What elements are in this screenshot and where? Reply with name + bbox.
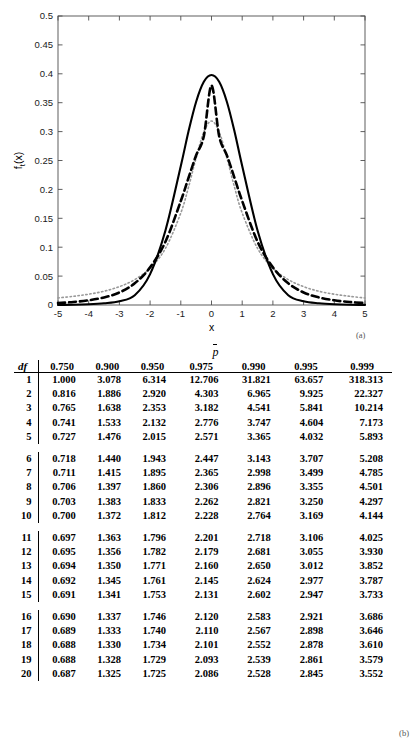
- column-header-0975: 0.975: [175, 360, 227, 372]
- x-tick-label: -3: [115, 308, 123, 319]
- table-cell-df: 1: [14, 373, 39, 388]
- table-cell-value: 1.833: [130, 495, 175, 509]
- table-cell-value: 2.821: [227, 495, 279, 509]
- table-row: 100.7001.3721.8122.2282.7643.1694.144: [14, 509, 392, 523]
- table-cell-value: 2.681: [227, 545, 279, 559]
- table-cell-value: 1.415: [85, 466, 130, 480]
- table-cell-value: 3.686: [332, 610, 392, 624]
- table-cell-value: 2.998: [227, 466, 279, 480]
- table-cell-value: 4.303: [175, 387, 227, 401]
- table-cell-df: 7: [14, 466, 39, 480]
- table-cell-value: 1.860: [130, 480, 175, 494]
- table-cell-df: 12: [14, 545, 39, 559]
- supertitle-spacer: [14, 345, 39, 360]
- table-cell-value: 1.328: [85, 653, 130, 667]
- table-cell-value: 2.571: [175, 430, 227, 444]
- table-cell-value: 2.160: [175, 559, 227, 573]
- table-cell-value: 318.313: [332, 373, 392, 388]
- table-cell-df: 18: [14, 638, 39, 652]
- table-cell-value: 3.747: [227, 416, 279, 430]
- x-tick-label: 3: [301, 308, 306, 319]
- table-cell-value: 2.015: [130, 430, 175, 444]
- table-cell-value: 2.861: [280, 653, 332, 667]
- table-cell-value: 1.740: [130, 624, 175, 638]
- column-header-0900: 0.900: [85, 360, 130, 372]
- y-tick-label: 0: [48, 299, 53, 310]
- table-cell-value: 1.383: [85, 495, 130, 509]
- column-header-0750: 0.750: [39, 360, 85, 372]
- table-cell-value: 3.055: [280, 545, 332, 559]
- table-cell-value: 3.169: [280, 509, 332, 523]
- table-cell-value: 3.078: [85, 373, 130, 388]
- table-cell-value: 1.356: [85, 545, 130, 559]
- table-cell-value: 1.771: [130, 559, 175, 573]
- table-cell-value: 2.878: [280, 638, 332, 652]
- table-supertitle-row: p: [14, 345, 392, 360]
- table-cell-df: 10: [14, 509, 39, 523]
- column-header-0995: 0.995: [280, 360, 332, 372]
- t-distribution-table: p df 0.750 0.900 0.950 0.975 0.990 0.995…: [14, 345, 392, 681]
- table-cell-value: 2.306: [175, 480, 227, 494]
- y-tick-label: 0.2: [40, 184, 53, 195]
- p-bar-letter: p: [212, 345, 218, 359]
- table-cell-value: 2.132: [130, 416, 175, 430]
- table-cell-value: 1.895: [130, 466, 175, 480]
- table-cell-value: 9.925: [280, 387, 332, 401]
- table-cell-value: 2.539: [227, 653, 279, 667]
- table-cell-value: 5.893: [332, 430, 392, 444]
- table-cell-value: 0.688: [39, 638, 85, 652]
- table-cell-value: 4.604: [280, 416, 332, 430]
- table-row: 120.6951.3561.7822.1792.6813.0553.930: [14, 545, 392, 559]
- table-cell-df: 15: [14, 588, 39, 602]
- column-header-0990: 0.990: [227, 360, 279, 372]
- table-cell-value: 1.943: [130, 452, 175, 466]
- table-cell-value: 2.353: [130, 401, 175, 415]
- x-tick-label: -5: [54, 308, 62, 319]
- y-axis-label: ft(x): [12, 152, 27, 169]
- table-cell-value: 0.700: [39, 509, 85, 523]
- table-cell-value: 3.143: [227, 452, 279, 466]
- table-row: 160.6901.3371.7462.1202.5832.9213.686: [14, 610, 392, 624]
- table-cell-value: 2.120: [175, 610, 227, 624]
- table-cell-value: 1.533: [85, 416, 130, 430]
- table-cell-value: 2.977: [280, 574, 332, 588]
- table-group-spacer: [14, 602, 392, 610]
- column-header-0999: 0.999: [332, 360, 392, 372]
- table-cell-value: 3.930: [332, 545, 392, 559]
- table-cell-value: 7.173: [332, 416, 392, 430]
- table-cell-value: 2.776: [175, 416, 227, 430]
- plot-frame: [58, 16, 365, 305]
- table-cell-value: 0.687: [39, 667, 85, 681]
- table-cell-df: 13: [14, 559, 39, 573]
- table-row: 130.6941.3501.7712.1602.6503.0123.852: [14, 559, 392, 573]
- figure-panel-b: p df 0.750 0.900 0.950 0.975 0.990 0.995…: [0, 345, 413, 744]
- table-cell-value: 1.796: [130, 531, 175, 545]
- table-cell-df: 9: [14, 495, 39, 509]
- table-cell-value: 0.695: [39, 545, 85, 559]
- table-cell-value: 6.314: [130, 373, 175, 388]
- table-cell-value: 0.689: [39, 624, 85, 638]
- table-cell-value: 1.812: [130, 509, 175, 523]
- table-row: 30.7651.6382.3533.1824.5415.84110.214: [14, 401, 392, 415]
- table-cell-value: 0.718: [39, 452, 85, 466]
- table-cell-df: 4: [14, 416, 39, 430]
- table-cell-value: 3.552: [332, 667, 392, 681]
- table-cell-value: 12.706: [175, 373, 227, 388]
- table-cell-value: 1.734: [130, 638, 175, 652]
- table-row: 200.6871.3251.7252.0862.5282.8453.552: [14, 667, 392, 681]
- x-tick-label: 4: [332, 308, 337, 319]
- x-tick-label: -2: [146, 308, 154, 319]
- panel-a-caption: (a): [356, 330, 365, 340]
- y-tick-label: 0.5: [40, 10, 53, 21]
- table-body: 11.0003.0786.31412.70631.82163.657318.31…: [14, 373, 392, 682]
- table-cell-value: 3.787: [332, 574, 392, 588]
- table-cell-df: 8: [14, 480, 39, 494]
- x-tick-label: 1: [240, 308, 245, 319]
- table-cell-value: 5.841: [280, 401, 332, 415]
- table-cell-value: 1.753: [130, 588, 175, 602]
- table-cell-value: 3.499: [280, 466, 332, 480]
- table-cell-value: 2.179: [175, 545, 227, 559]
- table-row: 70.7111.4151.8952.3652.9983.4994.785: [14, 466, 392, 480]
- table-cell-value: 3.610: [332, 638, 392, 652]
- table-cell-df: 3: [14, 401, 39, 415]
